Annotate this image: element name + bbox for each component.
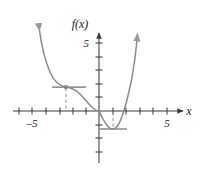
curve-left-branch <box>40 31 100 112</box>
plot-canvas: f(x) x 5 –5 5 <box>0 0 206 173</box>
curve-right-branch <box>99 34 138 129</box>
y-axis-label: f(x) <box>72 17 89 31</box>
y-tick-label-5: 5 <box>84 37 90 49</box>
x-tick-label-negative-5: –5 <box>26 117 39 129</box>
axes-group <box>13 33 183 163</box>
x-tick-label-positive-5: 5 <box>164 117 170 129</box>
x-axis-label: x <box>185 104 192 118</box>
function-graph-figure: f(x) x 5 –5 5 <box>0 0 206 173</box>
